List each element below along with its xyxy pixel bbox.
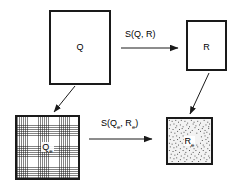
node-box-re: Re (166, 117, 213, 165)
right-diagonal-arrow (190, 73, 209, 114)
edge-label-top: S(Q, R) (125, 29, 156, 39)
node-box-qe: Qe (15, 115, 80, 180)
node-label-re-text: Re (184, 136, 196, 146)
edge-label-bottom: S(Qe, Re) (101, 118, 138, 132)
left-diagonal-arrow (54, 86, 75, 112)
node-label-q: Q (51, 43, 109, 52)
node-label-qe: Qe (17, 143, 78, 154)
node-box-r: R (186, 20, 227, 71)
node-label-re: Re (168, 137, 211, 148)
diagram-canvas: Q R Qe (0, 0, 240, 189)
node-label-qe-text: Qe (41, 142, 53, 152)
node-label-r: R (188, 43, 225, 52)
node-box-q: Q (49, 10, 111, 85)
